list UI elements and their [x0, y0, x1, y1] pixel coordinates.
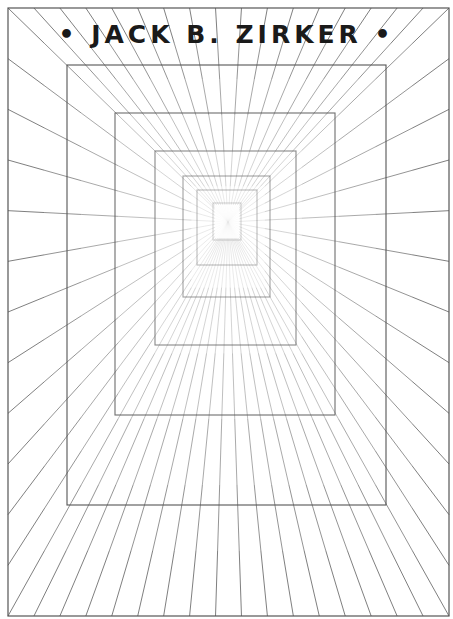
perspective-line: [274, 419, 289, 485]
perspective-line: [155, 201, 192, 211]
perspective-line: [81, 267, 118, 282]
perspective-line: [209, 115, 215, 151]
perspective-line: [293, 353, 326, 419]
perspective-line: [239, 8, 241, 44]
perspective-line: [289, 44, 304, 80]
perspective-line: [8, 297, 45, 312]
perspective-line: [232, 115, 234, 151]
perspective-line: [190, 550, 196, 616]
perspective-line: [274, 79, 289, 115]
perspective-line: [302, 320, 339, 369]
perspective-line: [118, 269, 155, 292]
perspective-line: [155, 218, 192, 220]
perspective-line: [8, 381, 45, 413]
perspective-line: [323, 485, 347, 551]
perspective-line: [412, 466, 449, 515]
perspective-line: [375, 383, 412, 423]
perspective-line: [81, 318, 118, 350]
perspective-line: [155, 237, 192, 252]
perspective-line: [339, 147, 376, 166]
perspective-line: [45, 383, 82, 423]
perspective-line: [412, 160, 449, 170]
perspective-line: [81, 113, 118, 140]
perspective-line: [157, 115, 181, 151]
perspective-line: [375, 485, 412, 551]
perspective-line: [220, 79, 222, 115]
perspective-line: [302, 353, 339, 419]
perspective-line: [254, 485, 261, 551]
perspective-line: [174, 485, 185, 551]
perspective-line: [131, 44, 150, 80]
perspective-line: [237, 485, 239, 551]
perspective-line: [302, 191, 339, 201]
perspective-line: [131, 353, 163, 419]
perspective-line: [216, 8, 218, 44]
perspective-line: [45, 44, 82, 80]
perspective-line: [241, 353, 248, 419]
perspective-line: [272, 485, 283, 551]
perspective-line: [66, 44, 98, 80]
perspective-line: [339, 242, 376, 249]
perspective-line: [45, 128, 82, 147]
perspective-line: [237, 44, 239, 80]
perspective-tunnel-artwork: [0, 0, 453, 619]
perspective-line: [375, 417, 412, 466]
perspective-line: [284, 353, 312, 419]
perspective-line: [250, 353, 261, 419]
perspective-line: [323, 44, 347, 80]
perspective-line: [339, 368, 376, 417]
perspective-line: [258, 115, 273, 151]
perspective-line: [45, 248, 82, 255]
perspective-line: [196, 115, 207, 151]
perspective-line: [190, 8, 196, 44]
perspective-line: [66, 485, 98, 551]
perspective-line: [302, 235, 339, 242]
perspective-line: [391, 550, 424, 616]
vanishing-glow: [215, 205, 239, 238]
perspective-line: [248, 79, 255, 115]
perspective-line: [239, 550, 241, 616]
perspective-line: [45, 417, 82, 466]
perspective-line: [313, 419, 341, 485]
perspective-line: [131, 485, 150, 551]
perspective-line: [185, 419, 196, 485]
perspective-line: [202, 79, 208, 115]
perspective-line: [81, 368, 118, 417]
perspective-line: [118, 235, 155, 242]
perspective-line: [202, 419, 208, 485]
perspective-line: [375, 248, 412, 255]
perspective-line: [267, 353, 287, 419]
perspective-line: [215, 151, 221, 187]
perspective-line: [45, 485, 82, 551]
perspective-line: [118, 191, 155, 201]
perspective-line: [164, 550, 175, 616]
perspective-line: [8, 466, 45, 515]
perspective-line: [302, 115, 339, 151]
perspective-line: [339, 267, 376, 282]
perspective-line: [8, 160, 45, 170]
perspective-line: [196, 485, 202, 551]
perspective-line: [412, 508, 449, 565]
perspective-line: [412, 297, 449, 312]
perspective-line: [375, 86, 412, 113]
perspective-line: [302, 252, 339, 267]
perspective-line: [116, 419, 144, 485]
perspective-line: [45, 316, 82, 339]
perspective-line: [261, 550, 268, 616]
perspective-line: [412, 255, 449, 262]
perspective-line: [302, 140, 339, 167]
perspective-line: [284, 115, 312, 151]
perspective-line: [118, 336, 155, 393]
perspective-line: [88, 485, 116, 551]
perspective-line: [261, 79, 272, 115]
perspective-line: [144, 353, 172, 419]
perspective-line: [326, 419, 359, 485]
perspective-line: [306, 44, 326, 80]
perspective-line: [155, 229, 192, 236]
perspective-line: [170, 115, 189, 151]
perspective-line: [412, 424, 449, 464]
perspective-line: [216, 550, 218, 616]
perspective-line: [341, 44, 369, 80]
perspective-line: [8, 109, 45, 128]
perspective-line: [375, 213, 412, 215]
